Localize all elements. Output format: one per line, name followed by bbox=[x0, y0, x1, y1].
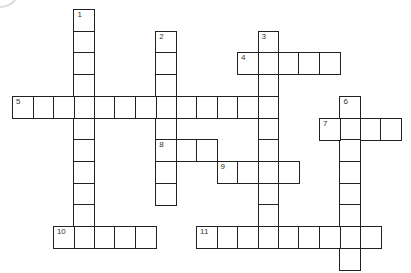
crossword-cell[interactable] bbox=[73, 118, 95, 141]
crossword-cell[interactable]: 7 bbox=[319, 118, 341, 141]
crossword-cell[interactable] bbox=[73, 31, 95, 54]
crossword-cell[interactable] bbox=[155, 96, 177, 119]
crossword-cell[interactable] bbox=[258, 52, 280, 75]
crossword-cell[interactable] bbox=[339, 183, 361, 206]
crossword-cell[interactable] bbox=[217, 226, 239, 249]
crossword-cell[interactable] bbox=[258, 139, 280, 162]
crossword-cell[interactable]: 4 bbox=[237, 52, 259, 75]
crossword-cell[interactable] bbox=[258, 96, 280, 119]
crossword-cell[interactable] bbox=[176, 96, 198, 119]
crossword-cell[interactable] bbox=[33, 96, 55, 119]
crossword-cell[interactable]: 11 bbox=[196, 226, 218, 249]
crossword-cell[interactable] bbox=[258, 118, 280, 141]
crossword-cell[interactable]: 5 bbox=[12, 96, 34, 119]
crossword-cell[interactable] bbox=[53, 96, 75, 119]
crossword-cell[interactable] bbox=[258, 226, 280, 249]
crossword-cell[interactable] bbox=[94, 96, 116, 119]
crossword-cell[interactable] bbox=[155, 52, 177, 75]
crossword-cell[interactable] bbox=[339, 161, 361, 184]
crossword-cell[interactable] bbox=[278, 52, 300, 75]
crossword-cell[interactable] bbox=[339, 139, 361, 162]
clue-number: 9 bbox=[221, 163, 225, 171]
crossword-cell[interactable] bbox=[155, 118, 177, 141]
crossword-cell[interactable] bbox=[360, 118, 382, 141]
crossword-cell[interactable] bbox=[380, 118, 402, 141]
crossword-cell[interactable] bbox=[196, 139, 218, 162]
crossword-cell[interactable]: 8 bbox=[155, 139, 177, 162]
crossword-cell[interactable] bbox=[258, 161, 280, 184]
crossword-cell[interactable] bbox=[237, 161, 259, 184]
crossword-cell[interactable] bbox=[73, 139, 95, 162]
crossword-cell[interactable] bbox=[298, 52, 320, 75]
crossword-cell[interactable] bbox=[135, 226, 157, 249]
crossword-cell[interactable]: 3 bbox=[258, 31, 280, 54]
crossword-cell[interactable] bbox=[258, 74, 280, 97]
clue-number: 10 bbox=[57, 228, 66, 236]
crossword-cell[interactable] bbox=[339, 204, 361, 227]
clue-number: 11 bbox=[200, 228, 208, 236]
crossword-cell[interactable] bbox=[339, 248, 361, 271]
clue-number: 1 bbox=[77, 11, 81, 19]
crossword-cell[interactable] bbox=[319, 226, 341, 249]
crossword-cell[interactable] bbox=[155, 74, 177, 97]
crossword-cell[interactable] bbox=[176, 139, 198, 162]
clue-number: 7 bbox=[323, 120, 327, 128]
crossword-cell[interactable] bbox=[73, 226, 95, 249]
crossword-cell[interactable]: 10 bbox=[53, 226, 75, 249]
crossword-cell[interactable] bbox=[94, 226, 116, 249]
crossword-cell[interactable] bbox=[237, 226, 259, 249]
crossword-cell[interactable] bbox=[196, 96, 218, 119]
clue-number: 2 bbox=[159, 33, 163, 41]
crossword-cell[interactable] bbox=[258, 183, 280, 206]
crossword-cell[interactable] bbox=[114, 226, 136, 249]
crossword-cell[interactable] bbox=[73, 74, 95, 97]
crossword-cell[interactable] bbox=[73, 161, 95, 184]
clue-number: 3 bbox=[262, 33, 266, 41]
crossword-cell[interactable] bbox=[114, 96, 136, 119]
crossword-cell[interactable] bbox=[237, 96, 259, 119]
crossword-cell[interactable] bbox=[319, 52, 341, 75]
crossword-cell[interactable]: 2 bbox=[155, 31, 177, 54]
crossword-cell[interactable] bbox=[217, 96, 239, 119]
crossword-cell[interactable] bbox=[258, 204, 280, 227]
crossword-grid: 1283456791011 bbox=[0, 0, 411, 273]
crossword-cell[interactable]: 9 bbox=[217, 161, 239, 184]
crossword-cell[interactable]: 1 bbox=[73, 9, 95, 32]
clue-number: 8 bbox=[159, 141, 163, 149]
crossword-cell[interactable] bbox=[73, 204, 95, 227]
clue-number: 6 bbox=[343, 98, 347, 106]
crossword-cell[interactable] bbox=[339, 226, 361, 249]
crossword-cell[interactable] bbox=[73, 52, 95, 75]
clue-number: 4 bbox=[241, 54, 245, 62]
crossword-cell[interactable] bbox=[278, 226, 300, 249]
clue-number: 5 bbox=[16, 98, 20, 106]
crossword-cell[interactable] bbox=[298, 226, 320, 249]
crossword-cell[interactable]: 6 bbox=[339, 96, 361, 119]
crossword-cell[interactable] bbox=[155, 161, 177, 184]
corner-decoration bbox=[0, 0, 18, 8]
crossword-cell[interactable] bbox=[155, 183, 177, 206]
crossword-cell[interactable] bbox=[73, 183, 95, 206]
crossword-cell[interactable] bbox=[135, 96, 157, 119]
crossword-cell[interactable] bbox=[278, 161, 300, 184]
crossword-cell[interactable] bbox=[339, 118, 361, 141]
crossword-cell[interactable] bbox=[360, 226, 382, 249]
crossword-cell[interactable] bbox=[73, 96, 95, 119]
